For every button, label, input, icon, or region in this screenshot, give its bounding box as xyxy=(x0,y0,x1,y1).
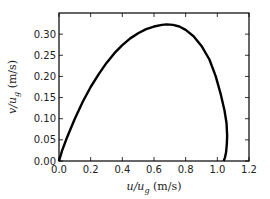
plot-frame xyxy=(59,13,249,161)
axis-ticks xyxy=(59,13,249,161)
x-tick-label: 0.6 xyxy=(146,164,162,175)
y-tick-label: 0.05 xyxy=(34,134,56,145)
data-curve xyxy=(59,24,227,161)
x-tick-label: 0.4 xyxy=(114,164,130,175)
x-tick-label: 0.2 xyxy=(83,164,99,175)
y-axis-label: v/ug (m/s) xyxy=(6,60,21,114)
y-tick-label: 0.15 xyxy=(34,92,56,103)
y-tick-label: 0.20 xyxy=(34,71,56,82)
y-tick-label: 0.10 xyxy=(34,113,56,124)
x-tick-label: 1.2 xyxy=(241,164,257,175)
y-tick-label: 0.30 xyxy=(34,29,56,40)
y-tick-label: 0.25 xyxy=(34,50,56,61)
x-tick-label: 0.8 xyxy=(178,164,194,175)
hodograph-chart: 0.00.20.40.60.81.01.20.000.050.100.150.2… xyxy=(0,0,270,199)
x-axis-label: u/ug (m/s) xyxy=(127,180,182,195)
x-tick-label: 1.0 xyxy=(209,164,225,175)
y-tick-label: 0.00 xyxy=(34,156,56,167)
